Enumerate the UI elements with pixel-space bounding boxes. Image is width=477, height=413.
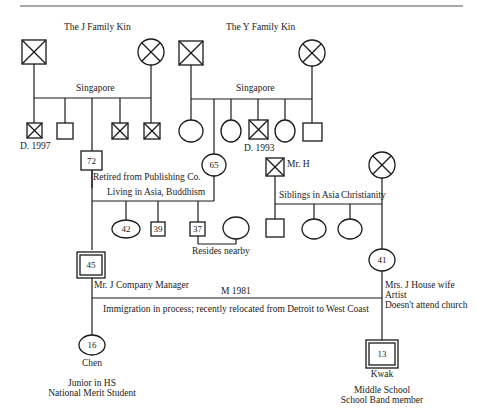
- y-grandfather-deceased: [179, 41, 203, 65]
- j-family-title: The J Family Kin: [64, 22, 131, 33]
- y-sibling-female: [221, 120, 241, 142]
- y-sibling-female: [179, 120, 203, 142]
- uncle-age-39: 39: [154, 224, 163, 234]
- mother-note-3: Doesn't attend church: [385, 300, 467, 310]
- chen-age: 16: [88, 340, 97, 350]
- uncle-37-spouse: [223, 217, 249, 239]
- father-note: Mr. J Company Manager: [94, 280, 189, 291]
- y-family-title: The Y Family Kin: [226, 22, 295, 33]
- j-sibling-deceased: [112, 123, 128, 139]
- grandfather-age: 72: [87, 156, 96, 166]
- genogram-diagram: The J Family Kin The Y Family Kin Singap…: [0, 0, 477, 413]
- grandfather-note: Retired from Publishing Co.: [93, 172, 201, 183]
- kwak-note-1: Middle School: [354, 385, 410, 395]
- y-sibling-male: [303, 123, 322, 141]
- grandparents-note: Living in Asia, Buddhism: [107, 187, 205, 198]
- father-age: 45: [87, 260, 96, 270]
- maternal-siblings-note: Siblings in Asia: [279, 190, 339, 201]
- mother-note-2: Artist: [385, 290, 407, 300]
- chen-note-2: National Merit Student: [48, 388, 136, 398]
- chen-name: Chen: [82, 358, 102, 369]
- genogram-lines: [0, 0, 477, 413]
- mother-note-1: Mrs. J House wife: [385, 280, 455, 290]
- j-family-place: Singapore: [76, 83, 115, 94]
- maternal-aunt: [338, 219, 362, 239]
- kwak-name: Kwak: [371, 369, 394, 380]
- j-sibling-death-note: D. 1997: [20, 141, 51, 152]
- family-note: Immigration in process; recently relocat…: [103, 304, 369, 315]
- kwak-age: 13: [378, 349, 387, 359]
- uncle-age-37: 37: [193, 224, 202, 234]
- maternal-grandmother-deceased: [369, 152, 395, 178]
- j-sibling-deceased: [144, 123, 160, 139]
- maternal-religion-note: Christianity: [341, 190, 386, 201]
- chen-note-1: Junior in HS: [68, 378, 116, 388]
- kwak-note-2: School Band member: [341, 395, 423, 405]
- y-family-place: Singapore: [236, 83, 275, 94]
- aunt-age: 42: [122, 224, 131, 234]
- j-grandfather-deceased: [22, 40, 46, 64]
- y-grandmother-deceased: [299, 40, 325, 66]
- maternal-uncle: [266, 219, 284, 237]
- y-sibling-death-note: D. 1993: [244, 143, 275, 154]
- uncle-37-note: Resides nearby: [192, 246, 250, 257]
- y-sibling-female: [275, 120, 295, 142]
- mr-h-label: Mr. H: [287, 159, 310, 170]
- marriage-label: M 1981: [221, 286, 251, 297]
- mr-h-deceased: [266, 158, 284, 176]
- maternal-aunt: [302, 219, 326, 239]
- j-grandmother-deceased: [138, 39, 164, 65]
- y-sibling-deceased: [249, 120, 268, 139]
- j-sibling-male: [57, 123, 73, 139]
- mother-age: 41: [378, 255, 387, 265]
- j-sibling-deceased: [27, 123, 42, 138]
- grandmother-age: 65: [210, 160, 219, 170]
